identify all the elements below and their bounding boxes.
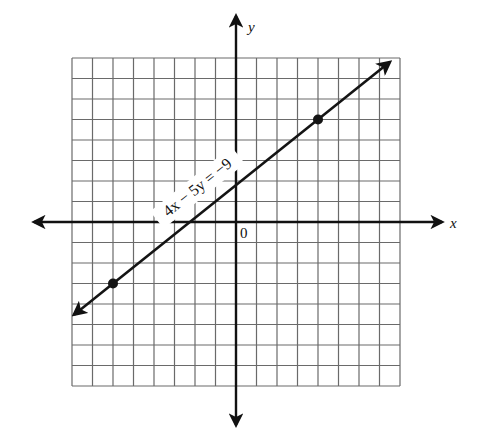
plotted-point [313,115,323,125]
equation-text: 4x − 5y = −9 [159,155,235,221]
axes [34,16,442,425]
coordinate-plane: y x 0 4x − 5y = −9 [0,0,483,428]
graph-line-group [74,62,390,315]
graph-line [74,62,390,315]
plotted-point [108,279,118,289]
x-axis-label: x [449,215,457,231]
y-axis-label: y [246,19,255,35]
origin-label: 0 [240,225,248,241]
